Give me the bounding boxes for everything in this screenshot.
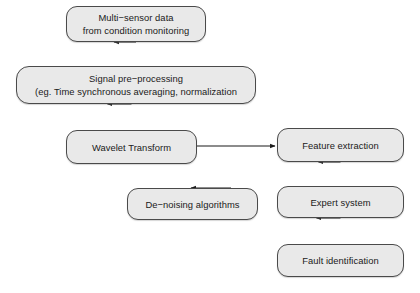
node-label-line: from condition monitoring [83,24,190,37]
node-feature-extraction: Feature extraction [277,128,404,162]
node-label-line: (eg. Time synchronous averaging, normali… [35,85,237,98]
node-label-line: Feature extraction [302,139,378,152]
node-label-line: Fault identification [302,254,379,267]
node-fault-identification: Fault identification [277,244,404,277]
node-de-noising-algorithms: De−noising algorithms [127,188,258,220]
node-label-line: Wavelet Transform [92,141,171,154]
node-wavelet-transform: Wavelet Transform [66,130,197,164]
node-signal-pre-processing: Signal pre−processing (eg. Time synchron… [16,66,256,104]
node-label-line: Signal pre−processing [89,72,183,85]
node-label-line: Expert system [310,196,370,209]
node-expert-system: Expert system [277,186,404,218]
node-label-line: Multi−sensor data [98,11,173,24]
node-label-line: De−noising algorithms [145,198,239,211]
flowchart-page: Multi−sensor data from condition monitor… [0,0,420,293]
node-multi-sensor-data: Multi−sensor data from condition monitor… [66,6,206,42]
